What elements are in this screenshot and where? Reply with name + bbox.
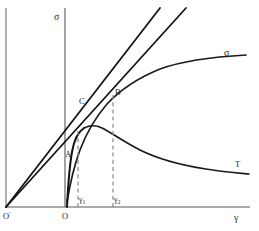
x-axis-label: γ — [234, 213, 238, 223]
sigma-curve-label: σ — [224, 48, 229, 58]
point-label-b: B — [115, 88, 121, 97]
chord-lower-line — [6, 8, 186, 207]
sigma-curve — [67, 55, 246, 202]
point-label-a: A — [65, 150, 71, 159]
origin-label: O — [62, 212, 68, 221]
gamma1-tick-label: γ1 — [79, 196, 86, 204]
t-curve-label: T — [235, 160, 240, 169]
gamma2-base: γ — [114, 195, 118, 204]
figure-canvas — [0, 0, 259, 231]
gamma2-subscript: 2 — [118, 199, 121, 205]
t-curve-decline — [84, 126, 249, 174]
gamma1-subscript: 1 — [83, 199, 86, 205]
outer-origin-prime: ' — [9, 210, 10, 218]
stress-strain-figure: σ γ O O' A B C σ T γ1 γ2 — [0, 0, 259, 231]
y-axis-label: σ — [54, 12, 59, 22]
point-label-c: C — [79, 97, 85, 106]
chord-upper-line — [6, 8, 160, 207]
gamma2-tick-label: γ2 — [114, 196, 121, 204]
outer-origin-label: O' — [3, 212, 11, 221]
gamma1-base: γ — [79, 195, 83, 204]
